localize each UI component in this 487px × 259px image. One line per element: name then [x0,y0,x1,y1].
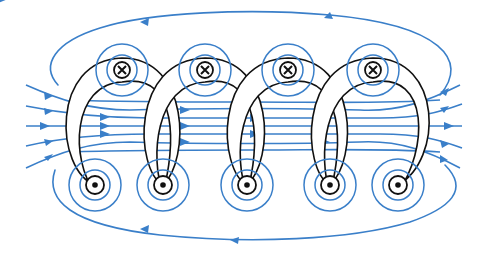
wire-out-of-page-icon [154,176,172,194]
wire-out-of-page-icon [321,176,339,194]
wire-into-page-icon [114,62,130,78]
wires-out-of-page [86,176,407,194]
wire-into-page-icon [280,62,296,78]
wire-into-page-icon [197,62,213,78]
wire-out-of-page-icon [389,176,407,194]
wire-out-of-page-icon [86,176,104,194]
solenoid-field-diagram [0,0,487,259]
wire-into-page-icon [365,62,381,78]
solenoid-svg [0,0,487,259]
wire-out-of-page-icon [238,176,256,194]
